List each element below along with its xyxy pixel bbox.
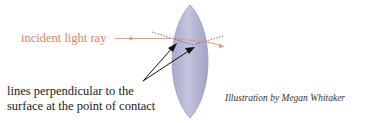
illustration-credit: Illustration by Megan Whitaker	[225, 93, 345, 103]
incident-ray-label: incident light ray	[21, 31, 106, 46]
perpendicular-label-line1: lines perpendicular to the	[7, 84, 155, 99]
perpendicular-lines-label: lines perpendicular to the surface at th…	[7, 84, 155, 113]
convex-lens	[172, 5, 208, 118]
lens-refraction-diagram: incident light ray lines perpendicular t…	[0, 0, 367, 123]
ray-arrowhead-left	[130, 37, 134, 41]
perpendicular-label-line2: surface at the point of contact	[7, 99, 155, 114]
ray-arrowhead-right	[219, 44, 224, 49]
